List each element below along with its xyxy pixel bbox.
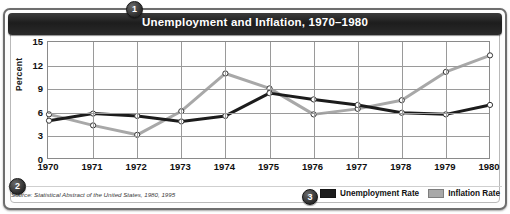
legend-swatch-icon: [320, 189, 336, 198]
gridline-h-12: [48, 66, 489, 67]
y-axis-ticks: 03691215: [18, 41, 43, 159]
page-title: Unemployment and Inflation, 1970–1980: [8, 16, 502, 28]
gridline-v-1975: [270, 42, 271, 158]
callout-badge-3: 3: [302, 189, 318, 205]
x-tick-1972: 1972: [126, 161, 147, 172]
callout-badge-2: 2: [9, 178, 26, 195]
gridline-v-1974: [225, 42, 226, 158]
plot-canvas: [47, 41, 490, 159]
gridline-v-1976: [314, 42, 315, 158]
plot-area-wrapper: Percent 03691215 19701971197219731974197…: [18, 41, 492, 171]
legend-item-inflation: Inflation Rate: [428, 189, 500, 198]
gridline-v-1978: [402, 42, 403, 158]
chart-screenshot: Unemployment and Inflation, 1970–1980 1 …: [0, 0, 510, 214]
callout-badge-1: 1: [126, 1, 143, 18]
x-tick-1975: 1975: [258, 161, 279, 172]
legend-swatch-icon: [428, 189, 444, 198]
data-point-marker: [487, 53, 492, 58]
gridline-v-1979: [446, 42, 447, 158]
x-tick-1971: 1971: [82, 161, 103, 172]
gridline-v-1973: [181, 42, 182, 158]
chart-legend: Unemployment RateInflation Rate: [320, 189, 500, 198]
data-point-marker: [46, 118, 51, 123]
gridline-h-3: [48, 136, 489, 137]
legend-label: Unemployment Rate: [340, 189, 419, 198]
y-tick-3: 3: [21, 130, 43, 141]
footer-divider: [8, 186, 502, 187]
legend-item-unemployment: Unemployment Rate: [320, 189, 419, 198]
legend-label: Inflation Rate: [448, 189, 500, 198]
x-tick-1970: 1970: [37, 161, 58, 172]
gridline-v-1971: [93, 42, 94, 158]
y-tick-6: 6: [21, 106, 43, 117]
x-tick-1977: 1977: [346, 161, 367, 172]
x-tick-1980: 1980: [478, 161, 499, 172]
gridline-v-1972: [137, 42, 138, 158]
gridline-h-9: [48, 89, 489, 90]
data-point-marker: [487, 102, 492, 107]
x-tick-1974: 1974: [214, 161, 235, 172]
chart-title-bar: Unemployment and Inflation, 1970–1980: [8, 13, 502, 35]
x-tick-1979: 1979: [434, 161, 455, 172]
x-tick-1976: 1976: [302, 161, 323, 172]
source-note: Source: Statistical Abstract of the Unit…: [11, 191, 175, 198]
x-tick-1978: 1978: [390, 161, 411, 172]
x-axis-ticks: 1970197119721973197419751976197719781979…: [47, 161, 490, 175]
y-tick-9: 9: [21, 83, 43, 94]
gridline-h-6: [48, 113, 489, 114]
x-tick-1973: 1973: [170, 161, 191, 172]
y-tick-12: 12: [21, 59, 43, 70]
y-tick-15: 15: [21, 36, 43, 47]
gridline-v-1977: [358, 42, 359, 158]
